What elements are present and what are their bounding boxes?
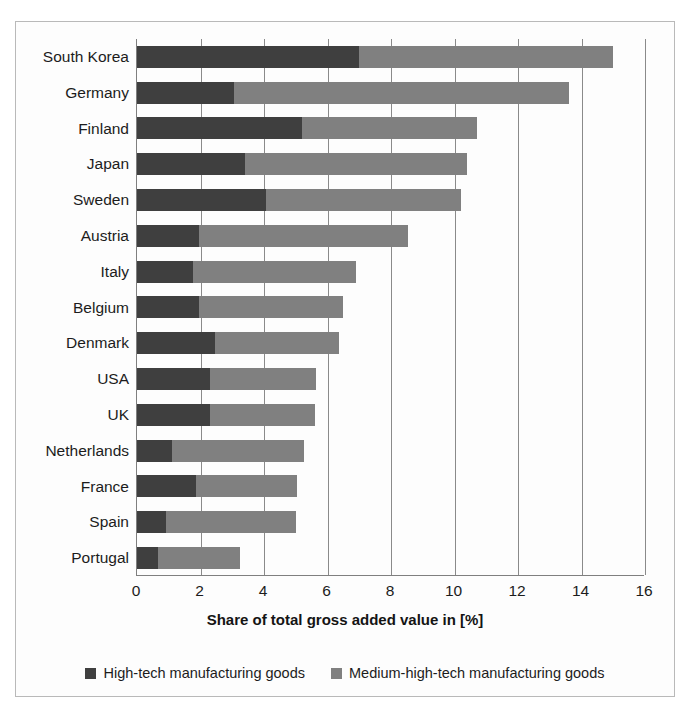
bar-row[interactable]: [137, 146, 467, 182]
bar-segment[interactable]: [158, 547, 241, 569]
category-label-portugal: Portugal: [71, 550, 129, 566]
bar-row[interactable]: [137, 182, 461, 218]
x-tick-14: 14: [572, 582, 589, 600]
x-axis-title: Share of total gross added value in [%]: [16, 611, 674, 628]
category-label-denmark: Denmark: [66, 335, 129, 351]
bar-row[interactable]: [137, 361, 316, 397]
x-tick-8: 8: [386, 582, 395, 600]
legend-swatch-icon: [85, 668, 96, 679]
bar-segment[interactable]: [137, 153, 245, 175]
x-tick-10: 10: [445, 582, 462, 600]
category-label-japan: Japan: [87, 156, 129, 172]
bar-segment[interactable]: [210, 404, 315, 426]
bar-segment[interactable]: [199, 225, 409, 247]
category-label-germany: Germany: [65, 85, 129, 101]
plot-area: [136, 39, 644, 576]
bar-row[interactable]: [137, 39, 613, 75]
legend-item[interactable]: High-tech manufacturing goods: [85, 665, 305, 681]
bar-segment[interactable]: [196, 475, 298, 497]
category-label-uk: UK: [107, 407, 129, 423]
bar-segment[interactable]: [137, 440, 172, 462]
bar-segment[interactable]: [137, 225, 199, 247]
category-label-netherlands: Netherlands: [45, 443, 129, 459]
bar-segment[interactable]: [137, 261, 193, 283]
bar-row[interactable]: [137, 469, 297, 505]
x-tick-0: 0: [132, 582, 141, 600]
x-tick-6: 6: [322, 582, 331, 600]
bar-segment[interactable]: [137, 189, 266, 211]
category-label-usa: USA: [97, 371, 129, 387]
category-label-south-korea: South Korea: [43, 49, 129, 65]
legend-item[interactable]: Medium-high-tech manufacturing goods: [331, 665, 605, 681]
category-label-finland: Finland: [78, 121, 129, 137]
legend-swatch-icon: [331, 668, 342, 679]
bar-segment[interactable]: [234, 82, 569, 104]
bar-segment[interactable]: [137, 368, 210, 390]
bar-segment[interactable]: [166, 511, 296, 533]
bar-row[interactable]: [137, 111, 477, 147]
bar-segment[interactable]: [210, 368, 316, 390]
bar-segment[interactable]: [137, 296, 199, 318]
bar-segment[interactable]: [137, 475, 196, 497]
bar-row[interactable]: [137, 540, 240, 576]
bar-segment[interactable]: [137, 511, 166, 533]
gridline-16: [645, 39, 646, 575]
category-label-france: France: [81, 479, 129, 495]
bar-row[interactable]: [137, 504, 296, 540]
bar-segment[interactable]: [215, 332, 339, 354]
category-label-italy: Italy: [101, 264, 129, 280]
category-label-belgium: Belgium: [73, 300, 129, 316]
legend-label: High-tech manufacturing goods: [103, 665, 305, 681]
chart-legend: High-tech manufacturing goodsMedium-high…: [16, 665, 674, 681]
category-label-austria: Austria: [81, 228, 129, 244]
bar-segment[interactable]: [359, 46, 613, 68]
bar-segment[interactable]: [172, 440, 304, 462]
bar-segment[interactable]: [245, 153, 467, 175]
bar-segment[interactable]: [137, 547, 158, 569]
bar-segment[interactable]: [137, 46, 359, 68]
bar-segment[interactable]: [137, 404, 210, 426]
bar-row[interactable]: [137, 254, 356, 290]
bar-segment[interactable]: [302, 117, 477, 139]
category-label-spain: Spain: [89, 514, 129, 530]
legend-label: Medium-high-tech manufacturing goods: [349, 665, 605, 681]
category-label-sweden: Sweden: [73, 192, 129, 208]
category-axis: South KoreaGermanyFinlandJapanSwedenAust…: [16, 39, 129, 576]
bar-segment[interactable]: [266, 189, 461, 211]
bar-row[interactable]: [137, 290, 343, 326]
bar-segment[interactable]: [137, 332, 215, 354]
bar-row[interactable]: [137, 397, 315, 433]
x-axis-tick-labels: 0246810121416: [136, 582, 644, 604]
bar-row[interactable]: [137, 325, 339, 361]
bar-row[interactable]: [137, 433, 304, 469]
x-tick-4: 4: [259, 582, 268, 600]
figure-frame: South KoreaGermanyFinlandJapanSwedenAust…: [15, 21, 675, 697]
x-tick-2: 2: [195, 582, 204, 600]
bar-segment[interactable]: [199, 296, 343, 318]
bar-series-container: [137, 39, 644, 575]
bar-row[interactable]: [137, 75, 569, 111]
x-tick-16: 16: [635, 582, 652, 600]
x-tick-12: 12: [508, 582, 525, 600]
bar-row[interactable]: [137, 218, 408, 254]
bar-segment[interactable]: [137, 82, 234, 104]
bar-segment[interactable]: [137, 117, 302, 139]
bar-segment[interactable]: [193, 261, 357, 283]
